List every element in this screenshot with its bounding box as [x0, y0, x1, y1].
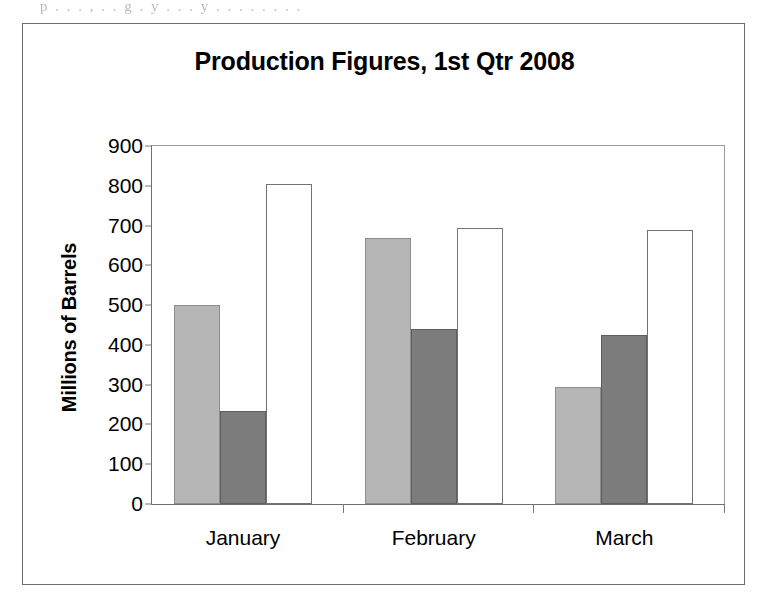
bar-march-series-1[interactable]: [555, 387, 601, 504]
bar-group-march: [555, 146, 693, 504]
bar-february-series-1[interactable]: [365, 238, 411, 505]
bar-january-series-2[interactable]: [220, 411, 266, 504]
y-tick-mark: [145, 185, 152, 186]
y-tick-mark: [145, 305, 152, 306]
bar-march-series-3[interactable]: [647, 230, 693, 504]
y-tick-mark: [145, 464, 152, 465]
y-tick-label: 100: [108, 452, 143, 476]
y-tick-label: 900: [108, 134, 143, 158]
y-tick-mark: [145, 504, 152, 505]
bar-january-series-3[interactable]: [266, 184, 312, 504]
scan-artifact-text: p . . . , . . g . y . . . y . . . . . . …: [40, 0, 302, 15]
y-axis-title: Millions of Barrels: [58, 198, 81, 458]
y-tick-mark: [145, 384, 152, 385]
x-tick-mark: [533, 504, 534, 513]
y-tick-label: 800: [108, 174, 143, 198]
y-tick-label: 300: [108, 373, 143, 397]
chart-title: Production Figures, 1st Qtr 2008: [23, 47, 746, 76]
y-tick-mark: [145, 265, 152, 266]
bar-group-february: [365, 146, 503, 504]
y-tick-label: 600: [108, 253, 143, 277]
bar-february-series-2[interactable]: [411, 329, 457, 504]
y-tick-label: 700: [108, 214, 143, 238]
x-tick-mark: [343, 504, 344, 513]
y-tick-mark: [145, 424, 152, 425]
y-tick-mark: [145, 225, 152, 226]
x-tick-label-february: February: [392, 526, 476, 550]
bar-february-series-3[interactable]: [457, 228, 503, 504]
y-tick-mark: [145, 146, 152, 147]
y-tick-label: 200: [108, 412, 143, 436]
plot-area: 9008007006005004003002001000 JanuaryFebr…: [151, 145, 725, 505]
y-tick-label: 400: [108, 333, 143, 357]
scan-artifact: p . . . , . . g . y . . . y . . . . . . …: [0, 0, 771, 16]
x-tick-label-january: January: [206, 526, 281, 550]
chart-figure-frame: Production Figures, 1st Qtr 2008 Million…: [22, 23, 745, 585]
x-tick-mark: [724, 504, 725, 513]
y-tick-mark: [145, 344, 152, 345]
y-tick-label: 0: [131, 492, 143, 516]
bar-march-series-2[interactable]: [601, 335, 647, 504]
bar-group-january: [174, 146, 312, 504]
bar-january-series-1[interactable]: [174, 305, 220, 504]
y-tick-label: 500: [108, 293, 143, 317]
x-tick-label-march: March: [595, 526, 653, 550]
